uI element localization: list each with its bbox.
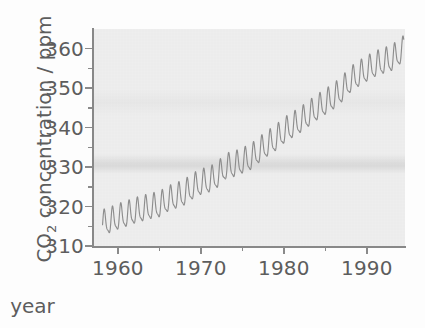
x-tick-label-1990: 1990	[327, 258, 407, 278]
x-tick-1970	[200, 247, 202, 254]
co2-keeling-curve-figure: 310320330340350360 1960197019801990 year…	[0, 0, 425, 328]
y-minor-tick-355	[88, 68, 92, 70]
y-minor-tick-345	[88, 107, 92, 109]
x-axis-spine	[92, 246, 406, 248]
x-tick-1980	[283, 247, 285, 254]
y-axis-title-tail: concentration / ppm	[32, 15, 56, 224]
co2-concentration-line	[93, 29, 405, 246]
y-tick-360	[85, 48, 92, 50]
x-tick-label-1970: 1970	[161, 258, 241, 278]
x-tick-label-1980: 1980	[244, 258, 324, 278]
y-tick-310	[85, 245, 92, 247]
y-minor-tick-335	[88, 147, 92, 149]
y-tick-340	[85, 127, 92, 129]
x-minor-tick-1975	[242, 247, 244, 251]
x-axis-title: year	[0, 296, 425, 316]
y-minor-tick-315	[88, 226, 92, 228]
plot-area	[93, 29, 405, 246]
y-tick-320	[85, 206, 92, 208]
x-tick-1960	[117, 247, 119, 254]
x-tick-1990	[366, 247, 368, 254]
y-axis-title-subscript: 2	[44, 225, 59, 233]
y-tick-350	[85, 87, 92, 89]
x-minor-tick-1985	[325, 247, 327, 251]
y-axis-title: CO2 concentration / ppm	[34, 0, 64, 284]
y-axis-title-main: CO	[32, 233, 56, 263]
y-minor-tick-325	[88, 186, 92, 188]
y-axis-spine	[92, 28, 94, 247]
x-tick-label-1960: 1960	[78, 258, 158, 278]
x-minor-tick-1965	[159, 247, 161, 251]
y-tick-330	[85, 166, 92, 168]
x-axis-title-text: year	[10, 294, 55, 318]
